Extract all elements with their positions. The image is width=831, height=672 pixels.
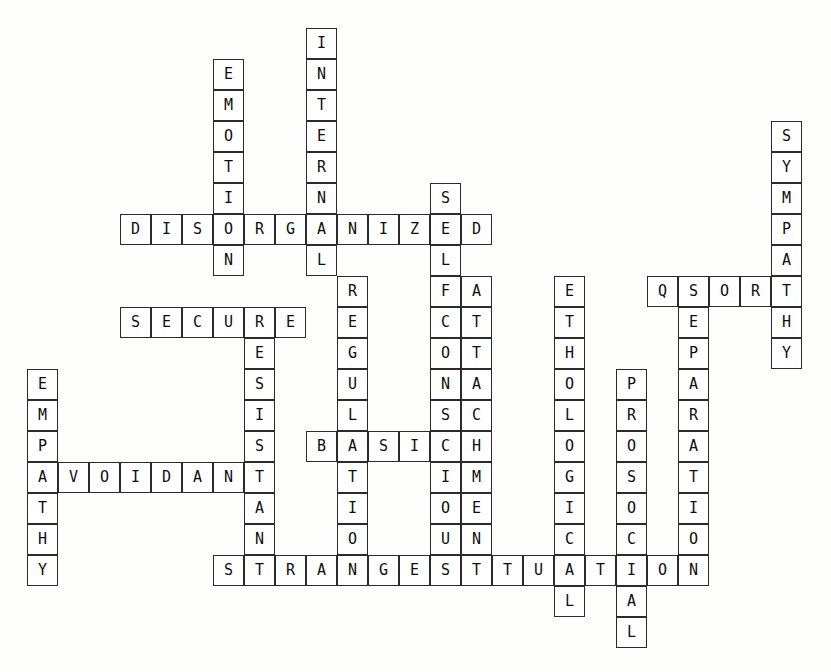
crossword-cell[interactable]: S [120,307,151,338]
crossword-cell[interactable]: E [213,59,244,90]
crossword-cell[interactable]: R [678,400,709,431]
crossword-cell[interactable]: T [244,462,275,493]
crossword-cell[interactable]: R [337,276,368,307]
crossword-cell[interactable]: E [27,369,58,400]
crossword-cell[interactable]: O [678,524,709,555]
crossword-cell[interactable]: A [616,586,647,617]
crossword-cell[interactable]: A [244,493,275,524]
crossword-cell[interactable]: E [399,555,430,586]
crossword-cell[interactable]: S [616,462,647,493]
crossword-cell[interactable]: O [430,493,461,524]
crossword-cell[interactable]: G [275,214,306,245]
crossword-cell[interactable]: A [461,276,492,307]
crossword-cell[interactable]: R [244,307,275,338]
crossword-cell[interactable]: N [306,183,337,214]
crossword-cell[interactable]: N [213,462,244,493]
crossword-cell[interactable]: T [213,152,244,183]
crossword-cell[interactable]: L [554,400,585,431]
crossword-cell[interactable]: M [27,400,58,431]
crossword-cell[interactable]: E [678,307,709,338]
crossword-cell[interactable]: T [554,307,585,338]
crossword-cell[interactable]: T [461,338,492,369]
crossword-cell[interactable]: S [368,431,399,462]
crossword-cell[interactable]: N [337,214,368,245]
crossword-cell[interactable]: A [771,245,802,276]
crossword-cell[interactable]: D [461,214,492,245]
crossword-cell[interactable]: T [461,555,492,586]
crossword-cell[interactable]: N [461,524,492,555]
crossword-cell[interactable]: A [678,431,709,462]
crossword-cell[interactable]: I [213,183,244,214]
crossword-cell[interactable]: T [244,555,275,586]
crossword-cell[interactable]: T [461,307,492,338]
crossword-cell[interactable]: T [678,462,709,493]
crossword-cell[interactable]: S [182,214,213,245]
crossword-cell[interactable]: U [213,307,244,338]
crossword-cell[interactable]: R [275,555,306,586]
crossword-cell[interactable]: N [337,555,368,586]
crossword-cell[interactable]: I [337,493,368,524]
crossword-cell[interactable]: A [182,462,213,493]
crossword-cell[interactable]: E [151,307,182,338]
crossword-cell[interactable]: N [430,369,461,400]
crossword-cell[interactable]: S [244,431,275,462]
crossword-cell[interactable]: P [771,214,802,245]
crossword-cell[interactable]: N [213,245,244,276]
crossword-cell[interactable]: T [492,555,523,586]
crossword-cell[interactable]: A [306,214,337,245]
crossword-cell[interactable]: F [430,276,461,307]
crossword-cell[interactable]: Y [771,152,802,183]
crossword-cell[interactable]: M [771,183,802,214]
crossword-cell[interactable]: L [306,245,337,276]
crossword-cell[interactable]: H [771,307,802,338]
crossword-cell[interactable]: L [554,586,585,617]
crossword-cell[interactable]: N [678,555,709,586]
crossword-cell[interactable]: C [182,307,213,338]
crossword-cell[interactable]: I [120,462,151,493]
crossword-cell[interactable]: I [151,214,182,245]
crossword-cell[interactable]: A [337,431,368,462]
crossword-cell[interactable]: I [616,555,647,586]
crossword-cell[interactable]: P [27,431,58,462]
crossword-cell[interactable]: I [554,493,585,524]
crossword-cell[interactable]: C [554,524,585,555]
crossword-cell[interactable]: S [430,183,461,214]
crossword-cell[interactable]: O [337,524,368,555]
crossword-cell[interactable]: B [306,431,337,462]
crossword-cell[interactable]: Q [647,276,678,307]
crossword-cell[interactable]: C [430,307,461,338]
crossword-cell[interactable]: U [430,524,461,555]
crossword-cell[interactable]: H [554,338,585,369]
crossword-cell[interactable]: H [27,524,58,555]
crossword-cell[interactable]: M [213,90,244,121]
crossword-cell[interactable]: O [89,462,120,493]
crossword-cell[interactable]: A [306,555,337,586]
crossword-cell[interactable]: T [585,555,616,586]
crossword-cell[interactable]: O [647,555,678,586]
crossword-cell[interactable]: R [244,214,275,245]
crossword-cell[interactable]: A [27,462,58,493]
crossword-cell[interactable]: S [213,555,244,586]
crossword-cell[interactable]: S [430,555,461,586]
crossword-cell[interactable]: R [740,276,771,307]
crossword-cell[interactable]: A [461,369,492,400]
crossword-cell[interactable]: C [616,524,647,555]
crossword-cell[interactable]: S [678,276,709,307]
crossword-cell[interactable]: A [554,555,585,586]
crossword-cell[interactable]: E [337,307,368,338]
crossword-cell[interactable]: O [709,276,740,307]
crossword-cell[interactable]: Y [771,338,802,369]
crossword-cell[interactable]: L [430,245,461,276]
crossword-cell[interactable]: M [461,462,492,493]
crossword-cell[interactable]: R [616,400,647,431]
crossword-cell[interactable]: D [151,462,182,493]
crossword-cell[interactable]: P [678,338,709,369]
crossword-cell[interactable]: E [430,214,461,245]
crossword-cell[interactable]: I [430,462,461,493]
crossword-cell[interactable]: U [523,555,554,586]
crossword-cell[interactable]: T [771,276,802,307]
crossword-cell[interactable]: T [337,462,368,493]
crossword-cell[interactable]: E [244,338,275,369]
crossword-cell[interactable]: E [554,276,585,307]
crossword-cell[interactable]: O [430,338,461,369]
